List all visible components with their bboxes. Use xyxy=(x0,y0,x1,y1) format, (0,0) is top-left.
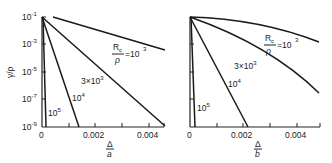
panel-a-ytick-label: 10-7 xyxy=(22,93,37,104)
panel-b-xtick-label: 0.002 xyxy=(231,130,253,140)
svg-text:3: 3 xyxy=(295,37,299,43)
svg-text:ρ: ρ xyxy=(265,46,271,56)
figure: 10-1 10-3 10-5 10-7 10-9 γ/ρ 0 0.002 0.0… xyxy=(0,0,332,163)
panel-a-label-1e5: 105 xyxy=(48,107,61,118)
panel-b-xlabel-bottom: b xyxy=(255,149,260,159)
panel-a-ytick-label: 10-1 xyxy=(22,11,37,22)
panel-a-xtick-label: 0 xyxy=(39,130,44,140)
panel-a-ylabel: γ/ρ xyxy=(5,66,15,78)
panel-b-xtick-label: 0.004 xyxy=(285,130,307,140)
panel-a-xtick-label: 0.002 xyxy=(83,130,105,140)
panel-a-xtick-label: 0.004 xyxy=(137,130,159,140)
panel-b-xlabel-top: Δ xyxy=(255,139,261,149)
panel-b-label-1e4: 104 xyxy=(228,78,241,89)
svg-text:=10: =10 xyxy=(277,40,292,50)
panel-a-ytick-label: 10-3 xyxy=(22,38,37,49)
svg-text:3: 3 xyxy=(143,46,147,52)
panel-b-curve-1e3 xyxy=(190,17,319,42)
panel-b-label-1e5: 105 xyxy=(197,102,210,113)
svg-text:c: c xyxy=(119,47,122,53)
panel-b: 0 0.002 0.004 Δ b R c ρ =10 3 3×103 104 … xyxy=(187,17,320,159)
panel-b-label-3e3: 3×103 xyxy=(234,60,257,71)
panel-b-xtick-label: 0 xyxy=(187,130,192,140)
panel-a-label-3e3: 3×103 xyxy=(81,75,104,86)
panel-b-label-rc: R c ρ =10 3 xyxy=(264,33,299,56)
svg-text:c: c xyxy=(271,38,274,44)
panel-a-xlabel-top: Δ xyxy=(107,139,113,149)
panel-a-curve-1e3 xyxy=(53,17,165,50)
panel-a-label-1e4: 104 xyxy=(72,92,85,103)
svg-text:=10: =10 xyxy=(125,49,140,59)
panel-a-xlabel-bottom: a xyxy=(107,149,112,159)
panel-a-label-rc: R c ρ =10 3 xyxy=(112,42,147,65)
panel-a: 10-1 10-3 10-5 10-7 10-9 γ/ρ 0 0.002 0.0… xyxy=(5,11,165,159)
panel-a-ytick-label: 10-9 xyxy=(22,121,37,132)
panel-a-ytick-label: 10-5 xyxy=(22,66,37,77)
svg-text:ρ: ρ xyxy=(114,55,120,65)
